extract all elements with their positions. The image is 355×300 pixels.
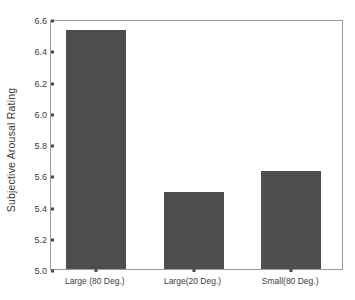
x-tick-mark bbox=[192, 269, 195, 272]
y-tick-mark bbox=[51, 207, 54, 210]
y-tick-mark bbox=[51, 20, 54, 23]
bar bbox=[164, 192, 224, 269]
y-tick: 5.2 bbox=[34, 234, 51, 246]
y-tick: 6.2 bbox=[34, 78, 51, 90]
y-tick-mark bbox=[51, 238, 54, 241]
x-tick-mark bbox=[94, 269, 97, 272]
y-tick-mark bbox=[51, 113, 54, 116]
y-tick: 5.4 bbox=[34, 203, 51, 215]
bar-chart-figure: Subjective Arousal Rating 5.05.25.45.65.… bbox=[0, 0, 355, 300]
y-tick-mark bbox=[51, 270, 54, 273]
y-tick-label: 5.2 bbox=[34, 235, 51, 245]
y-tick: 5.6 bbox=[34, 171, 51, 183]
bar bbox=[261, 171, 321, 269]
y-tick-mark bbox=[51, 82, 54, 85]
y-tick-label: 5.8 bbox=[34, 141, 51, 151]
plot-area: 5.05.25.45.65.86.06.26.46.6 bbox=[50, 20, 343, 270]
y-tick-label: 6.4 bbox=[34, 47, 51, 57]
y-tick-label: 6.0 bbox=[34, 110, 51, 120]
y-tick: 5.0 bbox=[34, 265, 51, 277]
x-tick-label: Small(80 Deg.) bbox=[262, 276, 319, 286]
y-tick-label: 5.6 bbox=[34, 172, 51, 182]
y-tick: 5.8 bbox=[34, 140, 51, 152]
bar bbox=[66, 30, 126, 269]
y-tick-label: 6.6 bbox=[34, 16, 51, 26]
x-tick-label: Large(20 Deg.) bbox=[164, 276, 221, 286]
x-tick-label: Large (80 Deg.) bbox=[65, 276, 125, 286]
y-tick-label: 5.4 bbox=[34, 204, 51, 214]
y-tick-mark bbox=[51, 51, 54, 54]
y-tick-mark bbox=[51, 145, 54, 148]
y-tick: 6.4 bbox=[34, 46, 51, 58]
y-tick-mark bbox=[51, 176, 54, 179]
y-tick: 6.0 bbox=[34, 109, 51, 121]
y-axis-title: Subjective Arousal Rating bbox=[0, 0, 22, 300]
y-tick: 6.6 bbox=[34, 15, 51, 27]
y-tick-label: 6.2 bbox=[34, 79, 51, 89]
y-tick-label: 5.0 bbox=[34, 266, 51, 276]
x-tick-mark bbox=[290, 269, 293, 272]
